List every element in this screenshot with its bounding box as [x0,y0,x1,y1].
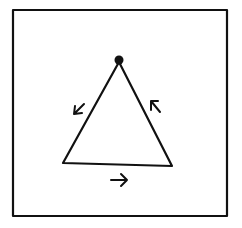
bottom-arrow-icon [111,174,127,186]
right-side-arrow-icon [151,101,160,112]
frame-border [13,10,227,216]
triangle-cycle-diagram [0,0,242,228]
left-side-arrow-icon [74,104,84,114]
start-dot [115,56,124,65]
